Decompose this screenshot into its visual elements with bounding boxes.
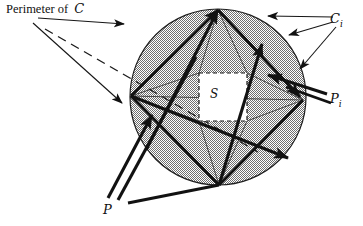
ci-arrow-mid — [289, 22, 333, 35]
label-ci-symbol: C — [330, 11, 340, 26]
label-perimeter-of-c: Perimeter ofC — [6, 2, 84, 16]
perimeter-leader — [33, 23, 122, 103]
label-pi-symbol: P — [330, 91, 339, 106]
geometry-figure: Perimeter ofC Ci Pi P S — [0, 0, 363, 226]
label-p-symbol: P — [103, 202, 112, 217]
ci-arrow-top — [268, 16, 333, 17]
label-p: P — [103, 203, 112, 216]
ci-arrow-low — [300, 27, 336, 69]
figure-canvas — [0, 0, 363, 226]
label-s-symbol: S — [210, 87, 218, 101]
label-perimeter-text: Perimeter of — [6, 2, 68, 16]
label-s: S — [210, 88, 218, 100]
label-ci-subscript: i — [340, 19, 343, 29]
label-ci: Ci — [330, 12, 343, 29]
label-pi: Pi — [330, 92, 342, 109]
perimeter-arrow — [38, 18, 124, 24]
label-perimeter-symbol: C — [68, 1, 84, 16]
label-pi-subscript: i — [339, 99, 342, 109]
